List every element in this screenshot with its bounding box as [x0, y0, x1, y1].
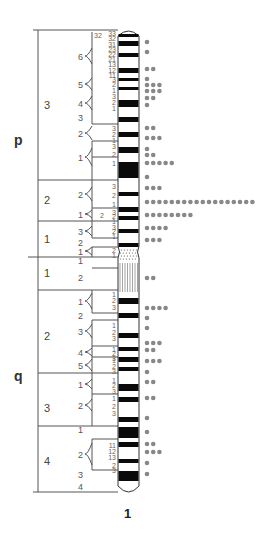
case-dot — [219, 200, 224, 205]
centromere-stipple — [127, 250, 128, 251]
case-dot — [157, 161, 162, 166]
subband-label: 1 — [112, 252, 116, 259]
case-dot — [145, 461, 150, 466]
case-dot — [145, 67, 150, 72]
case-dot — [182, 200, 187, 205]
case-dot — [145, 40, 150, 45]
centromere-stipple — [127, 256, 128, 257]
case-dot — [145, 50, 150, 55]
case-dot — [157, 450, 162, 455]
subband-label: 1 — [112, 160, 116, 167]
dark-band — [119, 53, 139, 57]
band-label: 2 — [78, 450, 83, 460]
case-dot — [145, 77, 150, 82]
case-dot — [151, 96, 156, 101]
centromere-stipple — [121, 250, 122, 251]
dark-band — [119, 78, 139, 81]
case-dot — [145, 147, 150, 152]
case-dot — [151, 213, 156, 218]
centromere-stipple — [129, 253, 130, 254]
case-dot — [157, 359, 162, 364]
case-dot — [151, 83, 156, 88]
case-dot — [213, 200, 218, 205]
dark-band — [119, 471, 139, 481]
centromere-stipple — [124, 250, 125, 251]
case-dot — [145, 200, 150, 205]
case-dot — [163, 200, 168, 205]
subband-label: 3 — [112, 183, 116, 190]
centromere-stipple — [130, 250, 131, 251]
case-dot — [188, 200, 193, 205]
centromere-stipple — [126, 253, 127, 254]
dark-band — [119, 417, 139, 422]
case-dot — [157, 200, 162, 205]
centromere-stipple — [123, 259, 124, 260]
case-dot — [176, 200, 181, 205]
case-dot — [151, 200, 156, 205]
case-dot — [207, 200, 212, 205]
dark-band — [119, 100, 139, 107]
case-dot — [151, 276, 156, 281]
case-dot — [145, 326, 150, 331]
case-dot — [151, 226, 156, 231]
dark-band — [119, 216, 139, 220]
band-label: 5 — [78, 80, 83, 90]
case-dot — [145, 359, 150, 364]
brace — [85, 247, 92, 255]
arm-label-q: q — [14, 368, 23, 384]
band-label: 1 — [78, 153, 83, 163]
centromere-stipple — [135, 259, 136, 260]
case-dot — [176, 213, 181, 218]
region-label: 1 — [44, 267, 50, 279]
brace — [85, 48, 92, 64]
subband-label: 1 — [112, 201, 116, 208]
case-dot — [145, 316, 150, 321]
case-dot — [145, 276, 150, 281]
case-dot — [145, 103, 150, 108]
band-label: 1 — [78, 425, 83, 435]
centromere-stipple — [133, 256, 134, 257]
case-dot — [151, 306, 156, 311]
dark-band — [119, 207, 139, 212]
case-dot — [145, 161, 150, 166]
case-dot — [163, 226, 168, 231]
band-label: 2 — [78, 129, 83, 139]
case-dot — [145, 136, 150, 141]
case-dot — [151, 341, 156, 346]
subband-label: 1 — [112, 105, 116, 112]
band-label: 6 — [78, 52, 83, 62]
dark-band — [119, 384, 139, 391]
case-dot — [145, 96, 150, 101]
dark-band — [119, 333, 139, 338]
dark-band — [119, 192, 139, 196]
subband-label: 3 — [112, 467, 116, 474]
case-dot — [145, 450, 150, 455]
subband-label: 3 — [112, 410, 116, 417]
subband-label: 3 — [112, 304, 116, 311]
centromere-stipple — [132, 259, 133, 260]
case-dot — [145, 89, 150, 94]
subband-label: 3 — [112, 388, 116, 395]
case-dot — [145, 186, 150, 191]
band-label: 4 — [78, 99, 83, 109]
case-dot — [157, 238, 162, 243]
centromere-stipple — [136, 250, 137, 251]
case-dot — [157, 306, 162, 311]
brace — [85, 443, 92, 465]
dark-band — [119, 34, 139, 37]
dark-band — [119, 367, 139, 371]
dark-band — [119, 442, 139, 447]
case-dot — [145, 213, 150, 218]
arm-label-p: p — [14, 132, 23, 148]
case-dot — [145, 370, 150, 375]
subband-label: 2 — [112, 192, 116, 199]
case-dot — [188, 213, 193, 218]
brace — [85, 226, 92, 236]
brace — [85, 379, 92, 389]
case-dot — [145, 380, 150, 385]
band-label: 2 — [78, 311, 83, 321]
centromere-stipple — [135, 253, 136, 254]
band-label: 2 — [78, 273, 83, 283]
band-label: 4 — [78, 482, 83, 492]
case-dot — [151, 136, 156, 141]
